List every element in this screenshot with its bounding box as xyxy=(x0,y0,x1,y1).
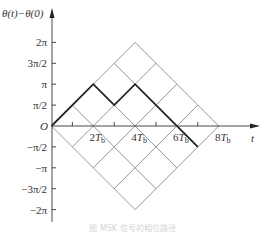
y-tick-label: −2π xyxy=(30,204,48,216)
x-tick-label: 2Tb xyxy=(89,131,105,145)
x-axis-label: t xyxy=(251,132,255,144)
y-tick-label: π xyxy=(41,78,47,90)
y-tick-label: −π/2 xyxy=(27,141,47,153)
y-tick-label: −π xyxy=(35,162,47,174)
y-tick-label: 3π/2 xyxy=(27,57,47,69)
phase-trellis-diagram: 2π3π/2ππ/2−π/2−π−3π/2−2π 2Tb4Tb6Tb8Tb θ(… xyxy=(0,0,265,236)
figure-caption: 图 MSK 信号的相位路径 xyxy=(0,222,265,233)
x-tick-label: 4Tb xyxy=(131,131,147,145)
x-tick-label: 6Tb xyxy=(173,131,189,145)
x-axis-ticks: 2Tb4Tb6Tb8Tb xyxy=(72,122,230,145)
y-axis-arrow-icon xyxy=(50,8,55,18)
y-axis-label: θ(t)−θ(0) xyxy=(2,7,44,20)
y-tick-label: 2π xyxy=(36,36,48,48)
x-tick-label: 8Tb xyxy=(215,131,231,145)
y-axis-ticks: 2π3π/2ππ/2−π/2−π−3π/2−2π xyxy=(21,36,56,215)
origin-label: O xyxy=(40,120,48,132)
y-tick-label: π/2 xyxy=(33,99,47,111)
x-axis-arrow-icon xyxy=(250,124,260,129)
y-tick-label: −3π/2 xyxy=(21,183,47,195)
